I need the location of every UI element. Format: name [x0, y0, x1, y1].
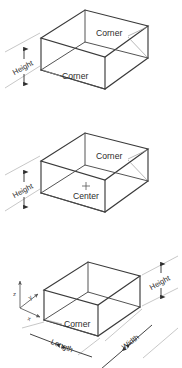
- center-cross-icon: [82, 182, 90, 190]
- diagram-canvas: Corner Corner Height: [0, 0, 182, 368]
- panel-center: Corner Center Height: [5, 133, 148, 212]
- corner-leader-line-lower: [43, 70, 60, 76]
- corner-label-center-panel: Corner: [96, 151, 122, 161]
- axis-triad: z y x: [13, 281, 40, 322]
- height-label-panel1: Height: [11, 58, 35, 77]
- corner-label-upper: Corner: [96, 28, 122, 38]
- width-label: Width: [120, 333, 141, 352]
- length-label: Length: [49, 337, 74, 354]
- corner-label-dimensions: Corner: [64, 319, 90, 329]
- box-wireframe-dimensions: [44, 262, 140, 336]
- corner-leader-lines-upper: [128, 27, 147, 57]
- axis-label-z: z: [13, 290, 16, 297]
- box-dimension-diagram: Corner Corner Height: [0, 0, 182, 368]
- box-wireframe-corner: [41, 10, 148, 89]
- height-dimension-panel1: [5, 33, 40, 88]
- center-label: Center: [73, 191, 99, 201]
- panel-corner: Corner Corner Height: [5, 10, 148, 89]
- height-label-panel3: Height: [148, 273, 172, 292]
- height-label-panel2: Height: [11, 181, 35, 200]
- axis-label-y: y: [27, 293, 34, 301]
- corner-label-lower: Corner: [62, 71, 88, 81]
- corner-leader-lines-center-panel: [128, 150, 147, 180]
- axis-label-x: x: [27, 314, 33, 322]
- height-dimension-panel2: [5, 156, 40, 211]
- panel-dimensions: Corner z y x Height: [13, 256, 178, 368]
